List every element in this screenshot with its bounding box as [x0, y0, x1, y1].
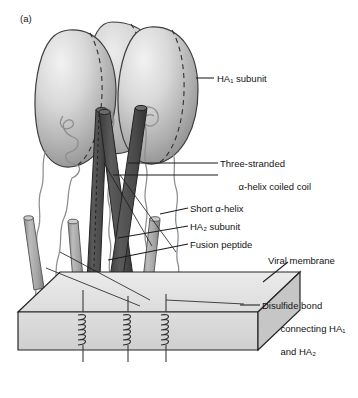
viral-membrane — [18, 272, 300, 350]
panel-letter: (a) — [20, 13, 32, 24]
membrane-front-face — [18, 312, 258, 350]
label-coiled-line-1: Three-stranded — [220, 158, 285, 169]
label-ha2-subunit: HA₂ subunit — [190, 221, 240, 233]
figure-panel-a: (a) HA₁ subunit Three-stranded α-helix c… — [0, 0, 358, 398]
leader-short-helix — [160, 208, 188, 214]
label-coiled-line-2: α-helix coiled coil — [238, 181, 311, 192]
label-disulfide-line-2: connecting HA₁ — [280, 323, 345, 334]
globular-head-group — [35, 22, 198, 167]
label-short-alpha-helix: Short α-helix — [190, 203, 244, 215]
label-three-stranded-coiled-coil: Three-stranded α-helix coiled coil — [220, 158, 311, 193]
membrane-top-face — [18, 272, 300, 312]
label-viral-membrane: Viral membrane — [268, 255, 335, 267]
short-helix-1 — [24, 216, 44, 290]
label-disulfide-line-1: Disulfide bond — [262, 300, 322, 311]
label-disulfide-bond: Disulfide bond connecting HA₁ and HA₂ — [262, 300, 345, 358]
label-disulfide-line-3: and HA₂ — [280, 346, 315, 357]
label-fusion-peptide: Fusion peptide — [190, 239, 252, 251]
label-ha1-subunit: HA₁ subunit — [217, 73, 267, 85]
